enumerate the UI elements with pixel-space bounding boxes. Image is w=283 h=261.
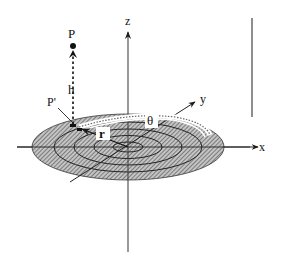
label-r: r — [99, 126, 105, 141]
label-theta: θ — [147, 113, 153, 128]
polar-coordinate-diagram: P h P' z y x r θ — [0, 0, 283, 261]
label-z: z — [125, 14, 130, 28]
label-h: h — [68, 82, 75, 97]
label-y: y — [200, 92, 206, 106]
label-p: P — [68, 26, 75, 41]
point-p-prime — [70, 124, 76, 127]
point-p — [70, 43, 76, 49]
label-x: x — [259, 140, 265, 154]
label-p-prime: P' — [47, 95, 56, 109]
